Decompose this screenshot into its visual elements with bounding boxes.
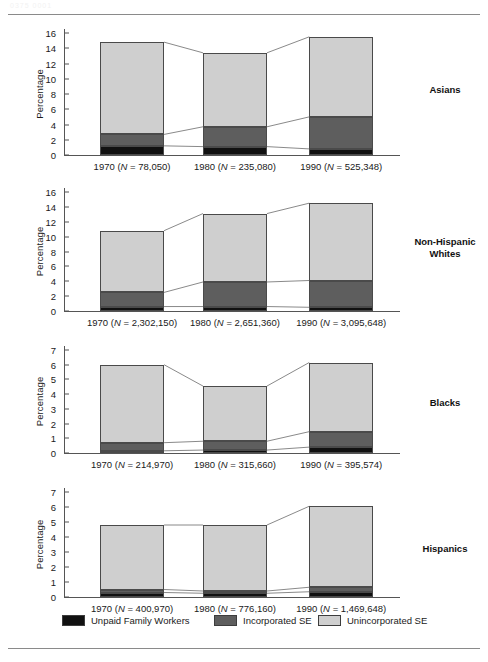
bar-segment: [309, 281, 373, 308]
y-axis-line: [64, 488, 65, 597]
y-tick-mark: [65, 394, 69, 395]
bar-1990: [309, 192, 373, 311]
y-tick-label: 4: [42, 276, 60, 287]
bar-segment: [100, 307, 164, 311]
y-tick-label: 4: [42, 119, 60, 130]
bar-segment: [203, 214, 267, 282]
bar-1970: [100, 192, 164, 311]
y-tick-label: 0: [42, 448, 60, 459]
x-axis-label: 1980 (N = 2,651,360): [190, 317, 280, 328]
chart-panel-asians: Percentage02468101214161970 (N = 78,050)…: [0, 0, 488, 662]
y-tick-mark: [65, 438, 69, 439]
y-tick-mark: [65, 567, 69, 568]
y-tick-mark: [65, 296, 69, 297]
bar-1980: [203, 492, 267, 597]
bar-segment: [309, 203, 373, 280]
x-axis-label: 1990 (N = 525,348): [300, 161, 382, 172]
bar-segment: [100, 42, 164, 134]
faint-header-text: 0375 0001: [10, 2, 52, 9]
y-tick-label: 1: [42, 577, 60, 588]
y-axis-label: Percentage: [34, 33, 45, 155]
bottom-divider-rule: [8, 648, 480, 649]
y-tick-mark: [65, 311, 69, 312]
y-tick-label: 6: [42, 261, 60, 272]
y-tick-label: 14: [42, 43, 60, 54]
bar-segment: [100, 365, 164, 443]
connector-lines: [0, 0, 488, 662]
y-tick-label: 8: [42, 246, 60, 257]
top-divider-rule: [8, 14, 480, 15]
bar-segment: [100, 451, 164, 453]
bar-segment: [309, 37, 373, 117]
x-axis-label: 1980 (N = 315,660): [194, 459, 276, 470]
bar-segment: [100, 590, 164, 593]
x-axis-line: [64, 453, 400, 454]
bar-segment: [203, 591, 267, 593]
x-axis-label: 1970 (N = 78,050): [94, 161, 171, 172]
y-tick-mark: [65, 522, 69, 523]
bar-segment: [100, 525, 164, 590]
y-tick-label: 7: [42, 345, 60, 356]
y-tick-label: 3: [42, 547, 60, 558]
legend-label: Unpaid Family Workers: [91, 615, 190, 626]
y-tick-label: 2: [42, 291, 60, 302]
y-axis-line: [64, 29, 65, 155]
y-tick-label: 10: [42, 231, 60, 242]
y-tick-mark: [65, 206, 69, 207]
group-label-non-hispanic-whites: Non-HispanicWhites: [404, 236, 486, 260]
bar-segment: [100, 292, 164, 306]
bar-segment: [100, 231, 164, 293]
bar-segment: [309, 506, 373, 587]
bar-segment: [309, 592, 373, 597]
chart-panel-hispanics: Percentage012345671970 (N = 400,970)1980…: [0, 0, 488, 662]
y-tick-label: 0: [42, 592, 60, 603]
x-axis-label: 1990 (N = 1,469,648): [296, 603, 386, 614]
y-tick-mark: [65, 364, 69, 365]
x-axis-label: 1970 (N = 214,970): [91, 459, 173, 470]
bar-1970: [100, 350, 164, 453]
bar-segment: [309, 117, 373, 149]
legend-item-incorporated[interactable]: Incorporated SE: [214, 615, 312, 626]
group-label-hispanics: Hispanics: [404, 543, 486, 555]
bar-segment: [309, 447, 373, 453]
legend-item-unincorporated[interactable]: Unincorporated SE: [318, 615, 427, 626]
bar-segment: [309, 432, 373, 447]
group-label-asians: Asians: [404, 84, 486, 96]
y-tick-mark: [65, 109, 69, 110]
legend-item-unpaid[interactable]: Unpaid Family Workers: [62, 615, 190, 626]
y-tick-label: 12: [42, 216, 60, 227]
y-tick-label: 0: [42, 306, 60, 317]
y-tick-mark: [65, 281, 69, 282]
x-axis-line: [64, 597, 400, 598]
x-axis-label: 1970 (N = 2,302,150): [87, 317, 177, 328]
y-tick-label: 16: [42, 187, 60, 198]
bar-segment: [309, 363, 373, 432]
x-axis-label: 1990 (N = 395,574): [300, 459, 382, 470]
bar-1970: [100, 492, 164, 597]
y-tick-label: 2: [42, 562, 60, 573]
legend-label: Unincorporated SE: [347, 615, 427, 626]
bar-segment: [203, 147, 267, 155]
y-tick-label: 1: [42, 433, 60, 444]
bar-segment: [309, 149, 373, 155]
connector-lines: [0, 0, 488, 662]
bar-segment: [203, 525, 267, 591]
y-tick-mark: [65, 251, 69, 252]
x-axis-label: 1970 (N = 400,970): [91, 603, 173, 614]
y-axis-label: Percentage: [34, 192, 45, 311]
group-label-blacks: Blacks: [404, 397, 486, 409]
y-tick-label: 6: [42, 359, 60, 370]
y-axis-line: [64, 188, 65, 311]
y-tick-label: 3: [42, 403, 60, 414]
chart-panel-non-hispanic-whites: Percentage02468101214161970 (N = 2,302,1…: [0, 0, 488, 662]
bar-1990: [309, 33, 373, 155]
y-tick-label: 5: [42, 517, 60, 528]
bar-1980: [203, 33, 267, 155]
y-tick-mark: [65, 155, 69, 156]
x-axis-line: [64, 155, 400, 156]
y-tick-label: 2: [42, 134, 60, 145]
y-tick-label: 10: [42, 73, 60, 84]
y-tick-label: 5: [42, 374, 60, 385]
bar-segment: [309, 307, 373, 311]
legend-swatch-unpaid: [62, 615, 85, 626]
